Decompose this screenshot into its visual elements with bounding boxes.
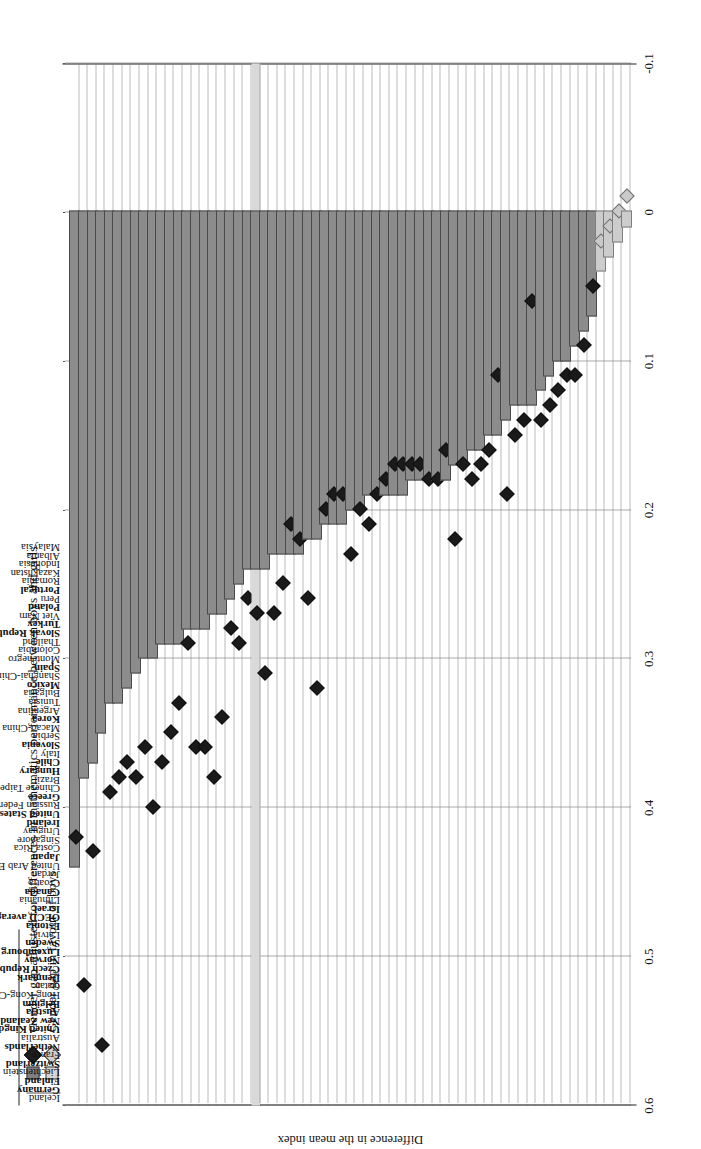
tick-label-0-3: 0.3 (640, 650, 656, 666)
tick-label-0: 0 (640, 209, 656, 216)
tick-label--0-1: -0.1 (640, 53, 656, 74)
tick-label-0-5: 0.5 (640, 948, 656, 964)
tick-label-0-6: 0.6 (640, 1097, 656, 1113)
bar-malaysia (620, 210, 631, 227)
marker-malaysia (619, 188, 635, 204)
tick-label-0-4: 0.4 (640, 799, 656, 815)
category-rows (70, 63, 630, 1105)
tick-label-0-2: 0.2 (640, 501, 656, 517)
tick-label-0-1: 0.1 (640, 353, 656, 369)
category-label-malaysia: Malaysia (21, 541, 60, 552)
rotated-figure-wrapper: Gender gap adjusted for differences in m… (0, 0, 701, 1149)
value-axis-title: Difference in the mean index (277, 1132, 423, 1147)
chart-row (621, 63, 630, 1105)
chart-figure: Gender gap adjusted for differences in m… (0, 0, 701, 1149)
plot-area: Difference in the mean index 0.60.50.40.… (70, 63, 630, 1105)
